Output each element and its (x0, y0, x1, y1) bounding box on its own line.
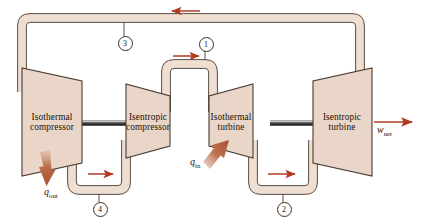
state-4-label: 4 (98, 205, 102, 214)
w-net-symbol: w (377, 124, 384, 135)
state-2-label: 2 (282, 205, 286, 214)
label-isentropic-compressor-line2: compressor (102, 122, 194, 132)
label-isentropic-compressor-line1: Isentropic (102, 112, 194, 122)
label-isothermal-turbine-line1: Isothermal (185, 112, 277, 122)
label-isentropic-turbine-line1: Isentropic (296, 112, 388, 122)
state-2-marker: 2 (277, 202, 292, 217)
state-1-marker: 1 (199, 37, 214, 52)
label-isentropic-turbine-line2: turbine (296, 122, 388, 132)
label-isentropic-turbine: Isentropic turbine (296, 112, 388, 133)
state-3-marker: 3 (118, 36, 133, 51)
cycle-diagram-figure: Isothermal compressor Isentropic compres… (0, 0, 421, 219)
state-1-label: 1 (204, 40, 208, 49)
q-out-subscript: out (49, 192, 58, 199)
diagram-canvas (0, 0, 421, 219)
label-q-out: qout (44, 186, 58, 199)
w-net-subscript: net (384, 130, 392, 137)
label-w-net: wnet (377, 124, 392, 137)
state-4-marker: 4 (93, 202, 108, 217)
label-isothermal-turbine-line2: turbine (185, 122, 277, 132)
q-in-arrow (203, 140, 229, 169)
label-isothermal-compressor-line1: Isothermal (6, 112, 98, 122)
q-in-subscript: in (195, 162, 200, 169)
label-isothermal-compressor-line2: compressor (6, 122, 98, 132)
label-isentropic-compressor: Isentropic compressor (102, 112, 194, 133)
label-isothermal-turbine: Isothermal turbine (185, 112, 277, 133)
label-q-in: qin (190, 156, 200, 169)
label-isothermal-compressor: Isothermal compressor (6, 112, 98, 133)
state-3-label: 3 (123, 39, 127, 48)
state2-connector-pipe (249, 140, 318, 194)
